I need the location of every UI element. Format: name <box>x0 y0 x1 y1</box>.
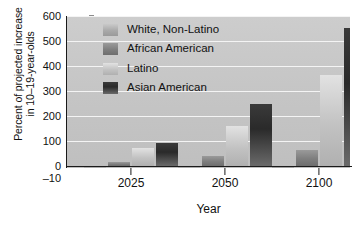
bar-2025-asian-american <box>156 143 178 166</box>
y-tick-label-300: 300 <box>43 86 61 97</box>
legend-item-white-non-latino: White, Non-Latino <box>103 21 219 38</box>
latino-swatch-icon <box>103 63 118 75</box>
african-american-swatch-icon <box>103 43 118 55</box>
bar-chart-figure: Percent of projected increase in 10–19-y… <box>0 0 359 225</box>
y-tick-label-100: 100 <box>43 136 61 147</box>
x-axis-title: Year <box>67 202 350 216</box>
y-tick-label-0: 0 <box>55 161 61 172</box>
legend-item-asian-american: Asian American <box>103 80 219 97</box>
x-tick-label-2025: 2025 <box>118 177 145 189</box>
bar-2050-asian-american <box>250 104 272 166</box>
x-tick-label-2100: 2100 <box>306 177 333 189</box>
y-tick-label-neg10: –10 <box>43 173 61 184</box>
y-tick-label-500: 500 <box>43 36 61 47</box>
bar-2050-african-american <box>202 156 224 166</box>
legend-item-african-american: African American <box>103 41 219 58</box>
asian-american-swatch-icon <box>103 82 118 94</box>
legend-label-white-non-latino: White, Non-Latino <box>127 24 219 36</box>
chart-legend: White, Non-Latino African American Latin… <box>103 21 219 99</box>
zero-baseline <box>66 166 352 167</box>
gridline-200 <box>67 116 350 117</box>
legend-item-latino: Latino <box>103 60 219 77</box>
legend-label-african-american: African American <box>127 43 214 55</box>
x-tick-mark-2025 <box>130 168 131 175</box>
y-tick-label-200: 200 <box>43 111 61 122</box>
bar-2050-latino <box>226 126 248 166</box>
gridline-600 <box>67 16 350 17</box>
bar-2100-african-american <box>296 150 318 166</box>
y-tick-label-400: 400 <box>43 61 61 72</box>
legend-label-asian-american: Asian American <box>127 82 207 94</box>
x-tick-label-2050: 2050 <box>212 177 239 189</box>
x-axis-tick-labels: 2025 2050 2100 <box>67 168 350 198</box>
x-tick-mark-2050 <box>224 168 225 175</box>
x-tick-mark-2100 <box>318 168 319 175</box>
white-non-latino-swatch-icon <box>103 24 118 36</box>
bar-2100-asian-american <box>344 28 350 166</box>
legend-label-latino: Latino <box>127 63 158 75</box>
y-tick-label-600: 600 <box>43 11 61 22</box>
gridline-100 <box>67 141 350 142</box>
bar-2100-latino <box>320 75 342 166</box>
y-axis-tick-labels: 600 500 400 300 200 100 0 –10 <box>27 0 61 225</box>
bar-2025-latino <box>132 148 154 166</box>
